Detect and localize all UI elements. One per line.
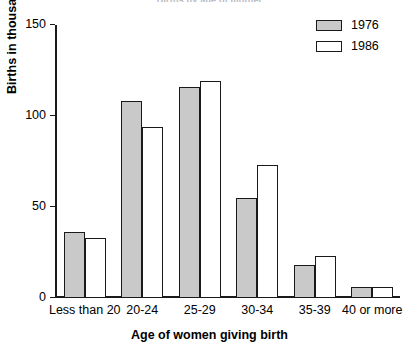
x-tick-label-2: 25-29 bbox=[184, 303, 216, 317]
bar-1986-25-29 bbox=[200, 81, 221, 298]
x-tick-label-0: Less than 20 bbox=[49, 303, 121, 317]
x-tick-label-3: 30-34 bbox=[241, 303, 273, 317]
y-tick-label-150: 150 bbox=[25, 17, 46, 31]
x-tick-label-1: 20-24 bbox=[126, 303, 158, 317]
bar-1986-Less-than-20 bbox=[85, 238, 106, 298]
bar-1986-35-39 bbox=[315, 256, 336, 298]
y-tick-label-100: 100 bbox=[25, 108, 46, 122]
bar-1976-20-24 bbox=[121, 101, 142, 298]
bar-1986-40-or-more bbox=[372, 287, 393, 298]
x-tick-label-5: 40 or more bbox=[342, 303, 402, 317]
bar-1976-25-29 bbox=[179, 87, 200, 298]
bar-1986-30-34 bbox=[257, 165, 278, 298]
bars-layer bbox=[55, 25, 400, 298]
bar-1986-20-24 bbox=[142, 127, 163, 298]
bar-1976-30-34 bbox=[236, 198, 257, 298]
bar-1976-40-or-more bbox=[351, 287, 372, 298]
bar-1976-35-39 bbox=[294, 265, 315, 298]
x-tick-label-4: 35-39 bbox=[299, 303, 331, 317]
plot-area: 050100150 bbox=[55, 25, 400, 298]
x-axis-label: Age of women giving birth bbox=[0, 328, 419, 342]
bar-chart: Births by age of mother 1976 1986 Births… bbox=[0, 0, 419, 353]
x-axis-tick-labels: Less than 2020-2425-2930-3435-3940 or mo… bbox=[0, 303, 419, 321]
y-tick-label-50: 50 bbox=[32, 199, 46, 213]
y-axis-label: Births in thousands bbox=[5, 0, 19, 94]
chart-title: Births by age of mother bbox=[0, 0, 419, 2]
bar-1976-Less-than-20 bbox=[64, 232, 85, 298]
